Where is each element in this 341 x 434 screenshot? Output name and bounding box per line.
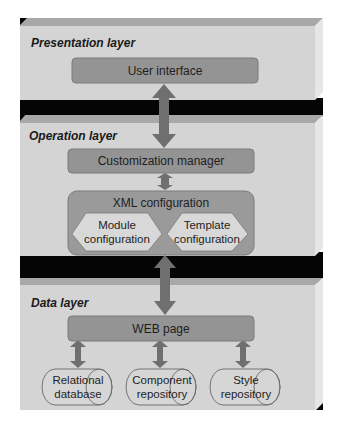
operation-layer-side <box>315 115 323 256</box>
style-repository-node[interactable]: Style repository <box>210 369 280 405</box>
component-repository-node[interactable]: Component repository <box>126 369 196 405</box>
customization-manager-node[interactable]: Customization manager <box>68 149 254 173</box>
xml-configuration-label: XML configuration <box>113 196 209 210</box>
template-configuration-node[interactable]: Template configuration <box>167 213 248 251</box>
style-repository-label-line1: Style <box>233 374 259 386</box>
module-configuration-node[interactable]: Module configuration <box>72 213 162 251</box>
relational-database-label-line2: database <box>54 388 101 400</box>
data-layer-title: Data layer <box>31 296 90 310</box>
module-configuration-label-line2: configuration <box>84 233 150 245</box>
component-repository-label-line2: repository <box>137 388 188 400</box>
template-configuration-label-line1: Template <box>184 219 231 231</box>
presentation-layer-band <box>20 98 323 117</box>
user-interface-node[interactable]: User interface <box>72 58 258 83</box>
web-page-label: WEB page <box>132 322 190 336</box>
xml-configuration-node[interactable]: XML configuration Module configuration T… <box>68 191 254 255</box>
template-configuration-label-line2: configuration <box>174 233 240 245</box>
customization-manager-label: Customization manager <box>98 154 225 168</box>
presentation-layer-title: Presentation layer <box>31 36 136 50</box>
web-page-node[interactable]: WEB page <box>68 316 254 341</box>
relational-database-label-line1: Relational <box>52 374 103 386</box>
module-configuration-label-line1: Module <box>98 219 136 231</box>
presentation-layer-side <box>315 18 323 100</box>
operation-layer-title: Operation layer <box>29 129 118 143</box>
data-layer-side <box>315 278 323 410</box>
presentation-layer-top-edge <box>20 18 323 26</box>
architecture-diagram: Presentation layer Operation layer Data … <box>0 0 341 434</box>
style-repository-label-line2: repository <box>221 388 272 400</box>
user-interface-label: User interface <box>128 64 203 78</box>
operation-layer-top-edge <box>20 115 323 123</box>
component-repository-label-line1: Component <box>132 374 192 386</box>
data-layer-top-edge <box>20 278 323 285</box>
relational-database-node[interactable]: Relational database <box>42 369 112 405</box>
